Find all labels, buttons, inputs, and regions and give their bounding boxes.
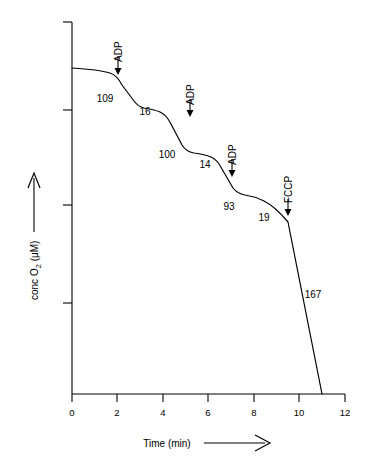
x-axis-title: Time (min) xyxy=(143,438,190,449)
trace-group xyxy=(72,68,322,394)
addition-label-fccp: FCCP xyxy=(283,175,294,203)
y-axis-title-group: conc O2 (μM) xyxy=(28,173,43,300)
addition-adp-2: ADP xyxy=(185,84,196,117)
rate-label-167: 167 xyxy=(305,289,322,300)
addition-adp-1: ADP xyxy=(113,41,124,75)
rate-label-109: 109 xyxy=(97,93,114,104)
addition-adp-3: ADP xyxy=(227,144,238,177)
addition-arrow-head-adp-2 xyxy=(187,110,194,117)
x-tick-label: 10 xyxy=(294,407,305,418)
x-tick-label: 6 xyxy=(205,407,210,418)
addition-arrow-head-fccp xyxy=(285,209,292,216)
rate-label-100: 100 xyxy=(159,149,176,160)
y-axis-group xyxy=(63,22,72,394)
x-tick-label: 12 xyxy=(340,407,351,418)
y-axis-title-unit: (μM) xyxy=(29,241,40,265)
oxygen-trace xyxy=(72,68,322,394)
addition-fccp: FCCP xyxy=(283,175,294,216)
addition-arrow-head-adp-1 xyxy=(115,68,122,75)
x-tick-label: 4 xyxy=(160,407,165,418)
x-tick-label: 0 xyxy=(69,407,74,418)
x-tick-label: 2 xyxy=(114,407,119,418)
x-axis-title-group: Time (min) xyxy=(143,435,270,451)
y-axis-title: conc O2 (μM) xyxy=(29,241,43,300)
x-tick-label: 8 xyxy=(251,407,256,418)
oxygraph-figure: conc O2 (μM) 0 2 4 6 8 10 12 Time (min) xyxy=(0,0,365,472)
rate-label-16: 16 xyxy=(139,106,151,117)
x-axis-group: 0 2 4 6 8 10 12 xyxy=(69,394,350,418)
rate-label-14: 14 xyxy=(199,159,211,170)
chart-svg: conc O2 (μM) 0 2 4 6 8 10 12 Time (min) xyxy=(0,0,365,472)
rate-label-93: 93 xyxy=(223,201,235,212)
rate-label-19: 19 xyxy=(258,212,270,223)
addition-arrow-head-adp-3 xyxy=(229,170,236,177)
y-axis-title-main: conc O xyxy=(29,268,40,300)
